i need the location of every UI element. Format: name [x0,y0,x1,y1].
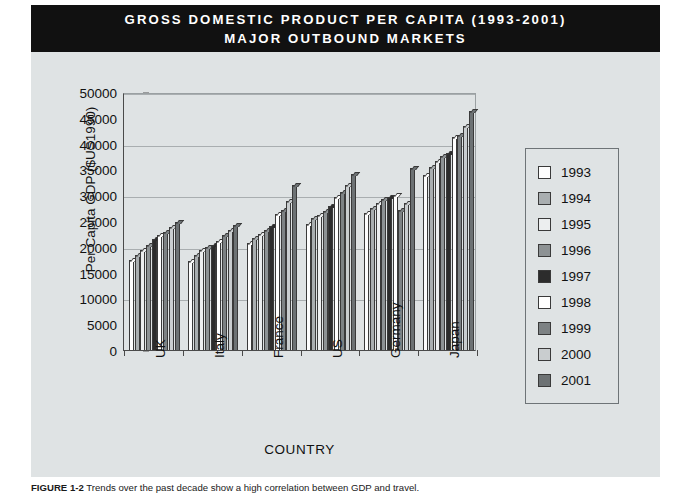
bar-group [423,94,474,350]
bar [169,227,174,350]
bar [370,208,375,350]
legend-label: 1999 [561,321,591,336]
bar [157,235,162,350]
bar [452,137,457,350]
bar [311,218,316,350]
bar [258,234,263,350]
y-axis-tick-label: 35000 [79,163,117,178]
legend-swatch [538,348,551,361]
bar [435,161,440,350]
bar [457,135,462,350]
bar [381,199,386,350]
y-axis-tick-label: 40000 [79,137,117,152]
bar [286,201,291,350]
chart-panel: Per Capita GDP ($US1990) 050001000015000… [31,52,660,477]
y-axis-tick-label: 45000 [79,111,117,126]
legend-item-1998: 1998 [538,289,618,315]
bar [135,255,140,350]
bar [351,174,356,350]
legend-label: 1997 [561,269,591,284]
x-axis-tick-mark [359,350,360,356]
bar [345,185,350,350]
bar [440,156,445,350]
legend-label: 1998 [561,295,591,310]
bar [188,261,193,350]
bar [228,230,233,350]
bar-series-container [124,94,475,350]
bar [323,211,328,350]
bar [146,245,151,350]
bar [317,215,322,350]
x-axis-label-germany: Germany [388,302,403,358]
legend-item-1993: 1993 [538,159,618,185]
y-axis-tick-label: 5000 [87,318,117,333]
x-axis-category-labels: UKItalyFranceUSGermanyJapan [123,358,476,436]
y-axis-tick-label: 0 [109,344,117,359]
bar [152,239,157,350]
x-axis-title: COUNTRY [123,442,476,457]
legend-label: 1994 [561,191,591,206]
bar [233,225,238,350]
y-axis-tick-labels: 0500010000150002000025000300003500040000… [55,93,117,351]
legend-label: 1995 [561,217,591,232]
bar [410,168,415,350]
y-axis-tick-label: 10000 [79,292,117,307]
caption-figure-number: FIGURE 1-2 [31,482,84,493]
plot-area [123,93,476,351]
legend-swatch [538,270,551,283]
x-axis-tick-mark [242,350,243,356]
x-axis-label-italy: Italy [212,333,227,358]
x-axis-tick-mark [124,350,125,356]
legend-swatch [538,166,551,179]
bar [429,167,434,350]
bar [292,185,297,350]
x-axis-label-us: US [330,339,345,358]
bar [364,213,369,350]
x-axis-label-france: France [271,316,286,358]
legend-swatch [538,322,551,335]
legend-swatch [538,218,551,231]
bar-group [129,94,180,350]
legend-label: 2000 [561,347,591,362]
x-axis-tick-mark [301,350,302,356]
bar [404,203,409,350]
bar [423,175,428,350]
legend-label: 1993 [561,165,591,180]
bar [469,111,474,350]
x-axis-tick-mark [183,350,184,356]
x-axis-tick-mark [418,350,419,356]
bar-group [306,94,357,350]
bar [328,206,333,350]
bar [463,126,468,350]
bar [175,222,180,350]
figure-caption: FIGURE 1-2 Trends over the past decade s… [31,481,671,494]
chart-legend: 199319941995199619971998199920002001 [525,148,619,404]
bar [334,197,339,350]
bar [140,250,145,350]
legend-item-1995: 1995 [538,211,618,237]
legend-swatch [538,244,551,257]
legend-item-2000: 2000 [538,341,618,367]
bar-group [188,94,239,350]
legend-item-1997: 1997 [538,263,618,289]
x-axis-tick-mark [477,350,478,356]
legend-item-1996: 1996 [538,237,618,263]
legend-swatch [538,296,551,309]
legend-swatch [538,192,551,205]
legend-label: 1996 [561,243,591,258]
chart-title-bar: GROSS DOMESTIC PRODUCT PER CAPITA (1993-… [31,5,660,52]
legend-swatch [538,374,551,387]
bar [252,238,257,350]
bar [205,247,210,350]
chart-title-line-2: MAJOR OUTBOUND MARKETS [224,29,467,48]
bar [194,255,199,350]
bar [306,224,311,350]
y-axis-tick-label: 15000 [79,266,117,281]
bar [264,230,269,350]
x-axis-label-uk: UK [153,339,168,358]
chart-title-line-1: GROSS DOMESTIC PRODUCT PER CAPITA (1993-… [125,10,567,29]
y-axis-tick-label: 20000 [79,240,117,255]
y-axis-tick-label: 50000 [79,86,117,101]
bar [340,192,345,350]
bar [163,232,168,350]
